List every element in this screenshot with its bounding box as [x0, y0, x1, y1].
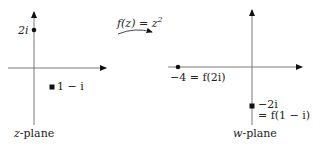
w-plane-axes	[168, 10, 302, 125]
point-2i-dot	[32, 28, 37, 33]
w-plane-caption: w-plane	[233, 128, 277, 140]
label-minus-4-equals-f-2i: −4 = f(2i)	[170, 72, 226, 84]
z-plane-caption: z-plane	[14, 128, 54, 140]
label-1-minus-i: 1 − i	[57, 81, 84, 93]
point-1-minus-i-square	[50, 85, 55, 90]
label-2i: 2i	[18, 25, 29, 37]
label-f-1-minus-i: = f(1 − i)	[258, 110, 310, 122]
mapping-label: f(z) = z2	[117, 14, 163, 30]
mapping-arrow-icon	[118, 30, 152, 34]
point-minus-4-dot	[176, 65, 181, 70]
point-minus-2i-square	[250, 104, 255, 109]
